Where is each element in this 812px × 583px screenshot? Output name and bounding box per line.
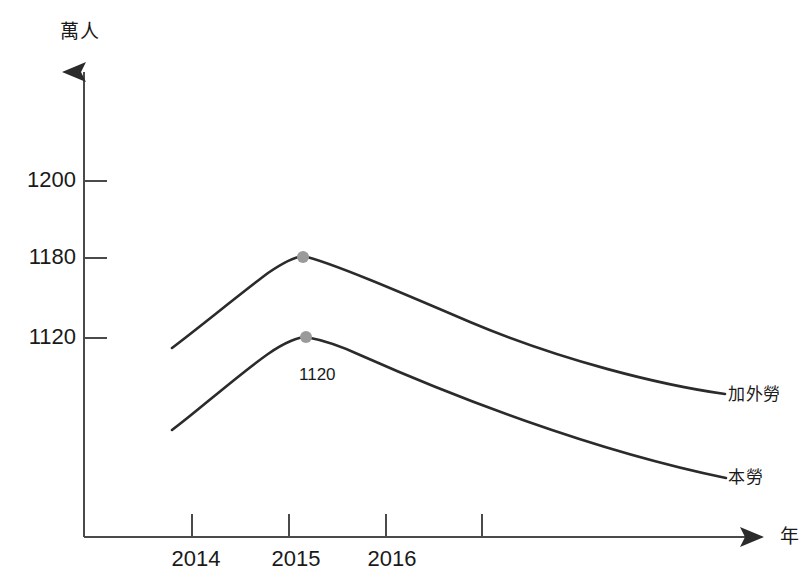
series-line-local-labor [172,337,726,478]
y-tick-label-1120: 1120 [18,326,76,348]
y-axis-unit-label: 萬人 [60,22,100,41]
series-line-foreign-labor [172,256,725,394]
y-tick-label-1200: 1200 [18,169,76,191]
series-label-local-labor: 本勞 [728,469,763,486]
series-label-foreign-labor: 加外勞 [728,386,781,403]
x-tick-label-2014: 2014 [156,548,236,570]
y-tick-label-1180: 1180 [18,246,76,268]
x-axis-unit-label: 年 [780,527,799,546]
x-tick-label-2015: 2015 [256,548,336,570]
data-point-marker-local-1120[interactable] [300,331,312,343]
chart-container: 萬人 年 1200 1180 1120 2014 2015 2016 加外勞 本… [0,0,812,583]
x-tick-label-2016: 2016 [352,548,432,570]
data-point-marker-foreign-1180[interactable] [297,251,309,263]
data-point-label-1120: 1120 [299,366,336,383]
chart-canvas [0,0,812,583]
